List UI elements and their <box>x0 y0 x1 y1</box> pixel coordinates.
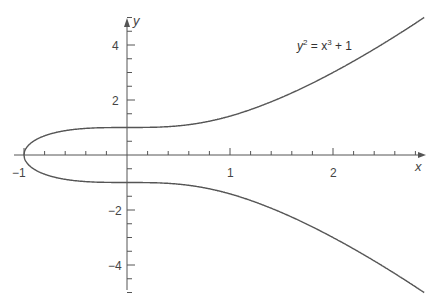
x-tick-label-1: 1 <box>227 166 234 180</box>
y-tick-label-minus2: −2 <box>108 204 122 218</box>
x-axis-label: x <box>414 159 422 174</box>
x-axis-arrow-icon <box>418 152 426 158</box>
equation-annotation: y2 = x3 + 1 <box>296 38 352 53</box>
eq-end: + 1 <box>332 39 353 53</box>
y-tick-label-2: 2 <box>112 94 119 108</box>
x-tick-label-2: 2 <box>330 166 337 180</box>
x-tick-label-minus1: −1 <box>12 166 26 180</box>
y-tick-label-minus4: −4 <box>108 259 122 273</box>
y-axis-label: y <box>132 13 141 28</box>
y-axis-arrow-icon <box>124 18 130 27</box>
eq-mid: = x <box>307 39 327 53</box>
elliptic-curve-chart: y x −1 1 2 4 2 −2 −4 y2 = x3 + 1 <box>0 0 437 307</box>
axes <box>14 18 426 293</box>
y-tick-label-4: 4 <box>112 39 119 53</box>
